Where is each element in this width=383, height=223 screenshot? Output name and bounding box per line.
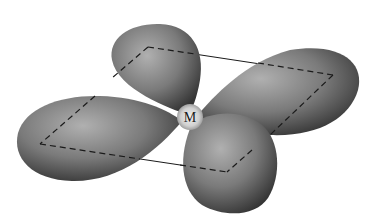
orbital-lobe-left (17, 96, 182, 181)
metal-label: M (184, 110, 197, 125)
orbital-diagram: M (0, 0, 383, 223)
orbital-lobe-bottom (183, 114, 277, 214)
